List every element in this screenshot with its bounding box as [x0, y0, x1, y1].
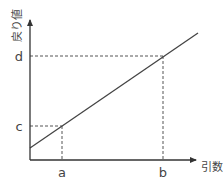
x-tick-b: b — [159, 165, 167, 180]
dashed-guides — [30, 56, 163, 160]
linear-function-diagram: d c a b 引数 戻り値 — [0, 0, 223, 186]
x-tick-a: a — [58, 165, 66, 180]
y-tick-d: d — [15, 49, 23, 64]
y-axis-label: 戻り値 — [11, 9, 24, 42]
x-axis-label: 引数 — [201, 160, 223, 174]
function-line — [30, 33, 198, 148]
y-tick-c: c — [15, 119, 22, 134]
